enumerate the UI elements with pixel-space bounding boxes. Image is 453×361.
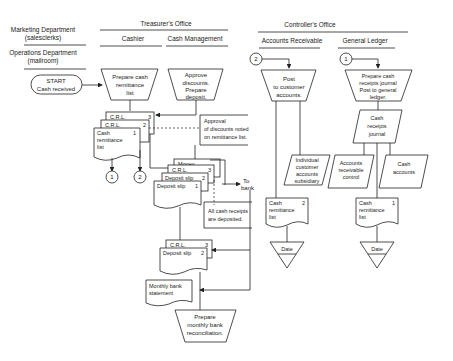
svg-text:Cash: Cash bbox=[371, 115, 384, 121]
svg-text:Cash received: Cash received bbox=[37, 86, 75, 92]
svg-text:remittance: remittance bbox=[269, 207, 295, 213]
svg-text:Date: Date bbox=[371, 246, 383, 252]
svg-text:C.R.L.: C.R.L. bbox=[172, 167, 188, 173]
svg-text:Prepare cash: Prepare cash bbox=[362, 73, 395, 79]
svg-text:ledger.: ledger. bbox=[370, 94, 387, 100]
svg-text:2: 2 bbox=[143, 122, 146, 128]
svg-text:control: control bbox=[343, 174, 360, 180]
svg-text:journal: journal bbox=[368, 131, 386, 137]
svg-text:Prepare cash: Prepare cash bbox=[112, 74, 148, 80]
svg-text:list: list bbox=[126, 90, 134, 96]
svg-text:remittance: remittance bbox=[359, 207, 385, 213]
header-controller: Controller's Office bbox=[284, 21, 336, 28]
header-cash-management: Cash Management bbox=[168, 35, 223, 43]
header-general-ledger: General Ledger bbox=[342, 37, 388, 45]
svg-text:Cash: Cash bbox=[269, 200, 282, 206]
svg-text:2: 2 bbox=[202, 175, 205, 181]
svg-text:Prepare: Prepare bbox=[194, 314, 216, 320]
svg-text:are deposited.: are deposited. bbox=[208, 216, 243, 222]
svg-text:to customer: to customer bbox=[273, 84, 304, 90]
svg-text:accounts.: accounts. bbox=[276, 92, 302, 98]
svg-text:remittance: remittance bbox=[116, 82, 145, 88]
svg-text:of discounts noted: of discounts noted bbox=[204, 126, 249, 132]
header-treasurer: Treasurer's Office bbox=[140, 20, 191, 27]
svg-text:receipts: receipts bbox=[367, 123, 387, 129]
to-bank-label: To bank bbox=[241, 178, 255, 191]
svg-text:3: 3 bbox=[205, 242, 208, 248]
flowchart-cash-receipts: Marketing Department (salesclerks) Opera… bbox=[0, 0, 453, 361]
header-marketing: Marketing Department (salesclerks) bbox=[11, 26, 75, 42]
svg-text:Cash: Cash bbox=[359, 200, 372, 206]
svg-text:1: 1 bbox=[133, 130, 136, 136]
svg-text:Approval: Approval bbox=[204, 118, 226, 124]
header-accounts-receivable: Accounts Receivable bbox=[262, 37, 323, 44]
svg-text:(salesclerks): (salesclerks) bbox=[25, 34, 61, 42]
svg-text:reconciliation.: reconciliation. bbox=[187, 330, 224, 336]
svg-text:accounts: accounts bbox=[296, 171, 318, 177]
svg-text:Date: Date bbox=[281, 246, 293, 252]
svg-text:Individual: Individual bbox=[295, 157, 318, 163]
svg-text:2: 2 bbox=[201, 250, 204, 256]
svg-text:1: 1 bbox=[392, 200, 395, 206]
svg-text:C.R.L.: C.R.L. bbox=[105, 122, 121, 128]
svg-text:monthly bank: monthly bank bbox=[187, 322, 224, 328]
svg-text:deposit.: deposit. bbox=[185, 94, 206, 100]
svg-text:3: 3 bbox=[208, 167, 211, 173]
svg-text:START: START bbox=[46, 78, 65, 84]
svg-text:Post: Post bbox=[283, 76, 295, 82]
svg-text:(mailroom): (mailroom) bbox=[27, 57, 58, 65]
svg-text:Accounts: Accounts bbox=[340, 160, 363, 166]
svg-text:Marketing Department: Marketing Department bbox=[11, 26, 75, 34]
svg-text:statement: statement bbox=[149, 290, 174, 296]
svg-text:Post to general: Post to general bbox=[360, 87, 397, 93]
svg-text:remittance: remittance bbox=[97, 137, 123, 143]
svg-text:Operations Department: Operations Department bbox=[9, 49, 77, 57]
svg-text:customer: customer bbox=[296, 164, 319, 170]
svg-text:Deposit slip: Deposit slip bbox=[165, 175, 193, 181]
flowchart-canvas: Marketing Department (salesclerks) Opera… bbox=[0, 0, 453, 361]
svg-text:receipts journal: receipts journal bbox=[359, 80, 396, 86]
svg-text:list: list bbox=[269, 214, 276, 220]
svg-text:subsidiary: subsidiary bbox=[295, 178, 320, 184]
approval-note: Approval of discounts noted on remittanc… bbox=[204, 118, 249, 140]
svg-text:Cash: Cash bbox=[97, 130, 110, 136]
header-cashier: Cashier bbox=[122, 35, 145, 42]
svg-text:list: list bbox=[359, 214, 366, 220]
svg-text:Approve: Approve bbox=[185, 72, 208, 78]
svg-text:Deposit slip: Deposit slip bbox=[157, 183, 185, 189]
svg-text:Monthly bank: Monthly bank bbox=[149, 283, 182, 289]
svg-text:discounts.: discounts. bbox=[182, 80, 209, 86]
svg-text:Deposit slip: Deposit slip bbox=[163, 250, 191, 256]
svg-text:list: list bbox=[97, 144, 104, 150]
svg-text:3: 3 bbox=[148, 114, 151, 120]
deposited-note: All cash receipts are deposited. bbox=[208, 208, 248, 222]
svg-text:Prepare: Prepare bbox=[185, 87, 207, 93]
svg-text:Cash: Cash bbox=[398, 161, 411, 167]
svg-text:All cash receipts: All cash receipts bbox=[208, 208, 248, 214]
svg-text:on remittance list.: on remittance list. bbox=[204, 134, 248, 140]
svg-text:2: 2 bbox=[302, 200, 305, 206]
svg-text:C.R.L.: C.R.L. bbox=[170, 242, 186, 248]
svg-text:To: To bbox=[243, 178, 250, 184]
svg-text:receivable: receivable bbox=[338, 167, 363, 173]
svg-text:accounts: accounts bbox=[393, 169, 415, 175]
svg-text:1: 1 bbox=[195, 183, 198, 189]
svg-text:bank: bank bbox=[241, 185, 255, 191]
svg-text:C.R.L.: C.R.L. bbox=[110, 114, 126, 120]
header-operations: Operations Department (mailroom) bbox=[9, 49, 77, 65]
